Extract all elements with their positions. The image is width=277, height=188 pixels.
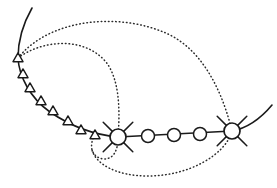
circle-markers-group [142, 128, 207, 143]
circle-marker [142, 130, 155, 143]
solid-trajectory-group [18, 8, 272, 137]
figure-container [0, 0, 277, 188]
junction-circle [110, 129, 126, 145]
triangle-marker [48, 106, 58, 115]
circle-marker [168, 129, 181, 142]
triangle-markers-group [13, 53, 100, 139]
dotted-arcs-group [18, 21, 232, 176]
circle-marker [194, 128, 207, 141]
solid-trajectory-line [18, 8, 272, 137]
trajectory-diagram [0, 0, 277, 188]
triangle-marker [13, 53, 23, 62]
junction-circle [224, 123, 240, 139]
